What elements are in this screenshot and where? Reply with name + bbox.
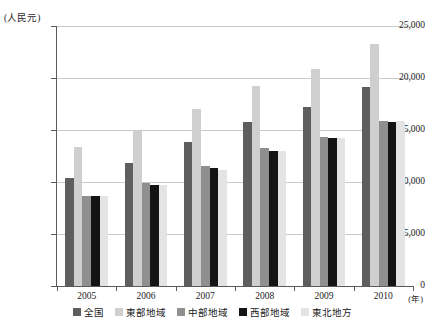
chart-title	[0, 0, 425, 3]
bar	[311, 69, 320, 286]
legend-item[interactable]: 東部地域	[115, 305, 166, 319]
legend-item[interactable]: 西部地域	[239, 305, 290, 319]
bar	[74, 147, 83, 286]
bar	[65, 178, 74, 286]
legend-label: 東部地域	[126, 305, 166, 319]
legend-label: 東北地方	[312, 305, 352, 319]
bar	[184, 142, 193, 286]
bar	[328, 138, 337, 286]
bar	[201, 166, 210, 286]
bar	[362, 87, 371, 286]
chart-legend: 全国東部地域中部地域西部地域東北地方	[0, 305, 425, 319]
bar	[82, 196, 91, 286]
bar	[370, 44, 379, 286]
x-tick-label: 2006	[116, 291, 175, 301]
x-tick-mark	[57, 286, 58, 291]
x-tick-label: 2008	[235, 291, 294, 301]
bar	[100, 196, 109, 286]
bar	[150, 185, 159, 286]
bar	[260, 148, 269, 286]
bar	[337, 138, 346, 286]
bar	[192, 109, 201, 286]
legend-swatch-icon	[115, 308, 123, 316]
legend-label: 全国	[84, 305, 104, 319]
bar	[278, 151, 287, 286]
bar	[210, 168, 219, 286]
bar	[379, 121, 388, 286]
x-tick-label: 2010	[354, 291, 413, 301]
x-tick-mark	[413, 286, 414, 291]
legend-label: 中部地域	[188, 305, 228, 319]
x-tick-label: 2005	[57, 291, 116, 301]
legend-swatch-icon	[73, 308, 81, 316]
legend-label: 西部地域	[250, 305, 290, 319]
bar-chart: (人民元) (年) 05,00010,00015,00020,00025,000…	[0, 0, 425, 321]
plot-area	[57, 26, 413, 286]
bar	[159, 185, 168, 286]
x-tick-label: 2007	[176, 291, 235, 301]
legend-swatch-icon	[301, 308, 309, 316]
bar	[133, 130, 142, 286]
legend-item[interactable]: 東北地方	[301, 305, 352, 319]
bar	[252, 86, 261, 286]
legend-item[interactable]: 全国	[73, 305, 104, 319]
legend-item[interactable]: 中部地域	[177, 305, 228, 319]
bar	[125, 163, 134, 286]
legend-swatch-icon	[239, 308, 247, 316]
bar	[218, 170, 227, 286]
bar	[396, 121, 405, 286]
bar	[142, 183, 151, 286]
bar	[269, 151, 278, 286]
bar	[91, 196, 100, 286]
bar	[320, 137, 329, 286]
legend-swatch-icon	[177, 308, 185, 316]
x-tick-label: 2009	[294, 291, 353, 301]
bar	[388, 122, 397, 286]
bar	[243, 122, 252, 286]
y-axis-unit-label: (人民元)	[4, 10, 40, 24]
bar	[303, 107, 312, 286]
